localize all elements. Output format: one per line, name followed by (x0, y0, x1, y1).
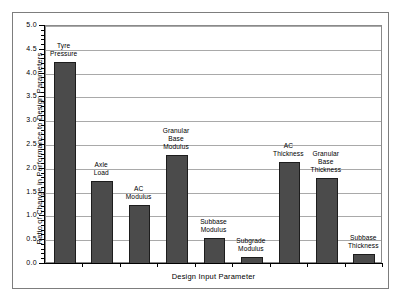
bar-label: Subgrade Modulus (226, 237, 277, 253)
y-axis-tick-label: 4.5 (3, 45, 37, 52)
x-axis-tick (382, 264, 383, 267)
bar-label: AC Modulus (113, 185, 164, 201)
x-axis-tick (82, 264, 83, 267)
bar (204, 238, 226, 264)
bar-label: Subbase Modulus (188, 218, 239, 234)
x-axis-tick (270, 264, 271, 267)
bar-label: Tyre Pressure (38, 42, 89, 58)
bar (316, 178, 338, 264)
bar-label: Axle Load (76, 161, 127, 177)
x-axis-spine (44, 263, 383, 264)
bar-label: Granular Base Thickness (301, 150, 352, 174)
gridline (46, 50, 381, 51)
y-axis-tick-label: 1.5 (3, 188, 37, 195)
bar (279, 162, 301, 264)
gridline (46, 145, 381, 146)
y-axis-tick-label: 4.0 (3, 69, 37, 76)
y-axis-title: Ratio of Change in Performance to Design… (35, 24, 44, 274)
y-axis-tick-label: 1.0 (3, 211, 37, 218)
x-axis-title: Design Input Parameter (45, 272, 382, 281)
x-axis-tick (157, 264, 158, 267)
y-axis-tick-label: 0.5 (3, 235, 37, 242)
bar (166, 155, 188, 264)
bar-chart-figure: 5.04.54.03.53.02.52.01.51.00.50.0 Tyre P… (0, 0, 401, 301)
x-axis-tick (345, 264, 346, 267)
x-axis-tick (232, 264, 233, 267)
bar-label: Subbase Thickness (338, 234, 389, 250)
gridline (46, 74, 381, 75)
gridline (46, 121, 381, 122)
y-axis-tick-label: 5.0 (3, 21, 37, 28)
y-axis-tick-label: 2.5 (3, 140, 37, 147)
x-axis-tick (307, 264, 308, 267)
gridline (46, 26, 381, 27)
y-axis-tick-label: 3.5 (3, 92, 37, 99)
bar (91, 181, 113, 264)
y-axis-tick-label: 2.0 (3, 164, 37, 171)
y-axis-tick-label: 3.0 (3, 116, 37, 123)
bar (54, 62, 76, 264)
y-axis-tick-labels: 5.04.54.03.53.02.52.01.51.00.50.0 (0, 0, 37, 301)
x-axis-tick (120, 264, 121, 267)
y-axis-tick-label: 0.0 (3, 259, 37, 266)
bar (129, 205, 151, 265)
bar-label: Granular Base Modulus (151, 127, 202, 151)
x-axis-tick (195, 264, 196, 267)
gridline (46, 97, 381, 98)
